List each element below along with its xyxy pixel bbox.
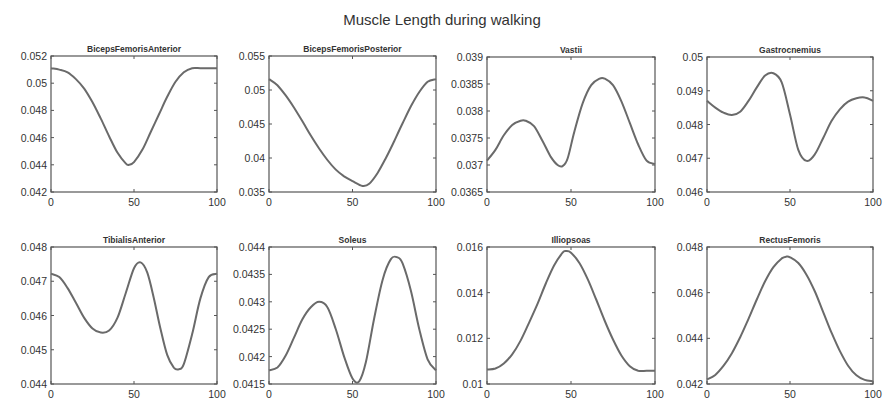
x-tick-label: 0 [48,388,54,400]
y-tick-label: 0.044 [21,159,47,171]
axes-box [707,247,873,384]
x-tick-label: 0 [48,196,54,208]
axes-box [269,247,436,384]
y-tick-label: 0.0385 [451,78,483,90]
x-tick-label: 50 [784,388,796,400]
x-tick-label: 0 [704,388,710,400]
y-tick-label: 0.044 [21,378,47,390]
y-tick-label: 0.049 [677,85,703,97]
x-tick-label: 100 [864,388,882,400]
x-tick-label: 50 [128,196,140,208]
x-tick-label: 100 [646,196,664,208]
y-tick-label: 0.0375 [451,132,483,144]
axes-box [269,56,436,192]
x-tick-label: 0 [266,388,272,400]
axes-box [487,247,655,384]
y-tick-label: 0.039 [457,51,483,63]
y-tick-label: 0.045 [239,118,265,130]
x-tick-label: 50 [128,388,140,400]
subplot-grid: BicepsFemorisAnterior0.0420.0440.0460.04… [21,44,882,400]
subplot-title: TibialisAnterior [103,235,166,245]
y-tick-label: 0.05 [683,51,704,63]
y-tick-label: 0.037 [457,159,483,171]
y-tick-label: 0.047 [677,152,703,164]
x-tick-label: 100 [208,388,226,400]
x-tick-label: 100 [208,196,226,208]
y-tick-label: 0.0365 [451,186,483,198]
y-tick-label: 0.045 [21,344,47,356]
y-tick-label: 0.035 [239,186,265,198]
y-tick-label: 0.044 [677,332,703,344]
y-tick-label: 0.05 [245,84,266,96]
y-tick-label: 0.01 [463,378,484,390]
y-tick-label: 0.046 [677,186,703,198]
y-tick-label: 0.04 [245,152,266,164]
y-tick-label: 0.048 [21,241,47,253]
y-tick-label: 0.0415 [233,378,265,390]
y-tick-label: 0.048 [21,104,47,116]
subplot-bicepsfemorisanterior: BicepsFemorisAnterior0.0420.0440.0460.04… [21,44,226,208]
y-tick-label: 0.038 [457,105,483,117]
y-tick-label: 0.05 [27,77,48,89]
subplot-bicepsfemorisposterior: BicepsFemorisPosterior0.0350.040.0450.05… [239,44,445,208]
subplot-title: BicepsFemorisPosterior [303,44,402,54]
x-tick-label: 0 [484,196,490,208]
x-tick-label: 0 [266,196,272,208]
y-tick-label: 0.048 [677,119,703,131]
y-tick-label: 0.016 [457,241,483,253]
x-tick-label: 100 [646,388,664,400]
y-tick-label: 0.048 [677,241,703,253]
y-tick-label: 0.055 [239,50,265,62]
subplot-title: Illiopsoas [551,235,590,245]
y-tick-label: 0.012 [457,332,483,344]
x-tick-label: 100 [864,196,882,208]
x-tick-label: 50 [347,196,359,208]
y-tick-label: 0.014 [457,287,483,299]
subplot-title: Vastii [560,45,582,55]
y-tick-label: 0.046 [21,310,47,322]
y-tick-label: 0.047 [21,275,47,287]
subplot-title: BicepsFemorisAnterior [87,44,182,54]
subplot-tibialisanterior: TibialisAnterior0.0440.0450.0460.0470.04… [21,235,226,400]
y-tick-label: 0.046 [677,287,703,299]
subplot-title: Gastrocnemius [759,45,821,55]
x-tick-label: 50 [347,388,359,400]
x-tick-label: 100 [427,196,445,208]
x-tick-label: 50 [565,388,577,400]
subplot-illiopsoas: Illiopsoas0.010.0120.0140.016050100 [457,235,664,400]
x-tick-label: 0 [704,196,710,208]
subplot-vastii: Vastii0.03650.0370.03750.0380.03850.0390… [451,45,664,208]
x-tick-label: 50 [784,196,796,208]
y-tick-label: 0.042 [239,351,265,363]
figure-title: Muscle Length during walking [343,11,541,28]
y-tick-label: 0.042 [677,378,703,390]
y-tick-label: 0.044 [239,241,265,253]
x-tick-label: 0 [484,388,490,400]
y-tick-label: 0.052 [21,50,47,62]
subplot-rectusfemoris: RectusFemoris0.0420.0440.0460.048050100 [677,235,882,400]
x-tick-label: 100 [427,388,445,400]
y-tick-label: 0.0425 [233,323,265,335]
subplot-soleus: Soleus0.04150.0420.04250.0430.04350.0440… [233,235,445,400]
x-tick-label: 50 [565,196,577,208]
figure: Muscle Length during walking BicepsFemor… [0,0,896,418]
y-tick-label: 0.042 [21,186,47,198]
axes-box [51,56,217,192]
axes-box [707,57,873,192]
subplot-title: Soleus [339,235,367,245]
y-tick-label: 0.046 [21,132,47,144]
y-tick-label: 0.043 [239,296,265,308]
subplot-title: RectusFemoris [759,235,821,245]
y-tick-label: 0.0435 [233,268,265,280]
subplot-gastrocnemius: Gastrocnemius0.0460.0470.0480.0490.05050… [677,45,882,208]
